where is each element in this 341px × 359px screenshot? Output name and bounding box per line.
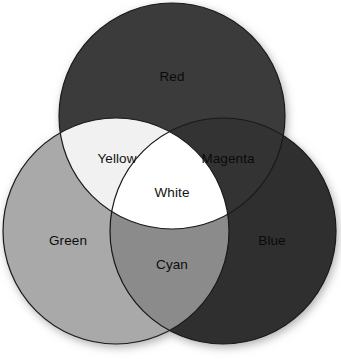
venn-label-cyan: Cyan [156, 257, 188, 272]
venn-label-white: White [154, 185, 189, 200]
venn-diagram-figure: Red Green Blue Yellow Magenta Cyan White [0, 0, 341, 359]
venn-label-green: Green [49, 233, 87, 248]
venn-label-red: Red [159, 69, 184, 84]
venn-label-blue: Blue [258, 233, 285, 248]
venn-diagram-canvas: Red Green Blue Yellow Magenta Cyan White [0, 0, 341, 359]
venn-label-yellow: Yellow [97, 151, 136, 166]
venn-label-magenta: Magenta [201, 151, 255, 166]
